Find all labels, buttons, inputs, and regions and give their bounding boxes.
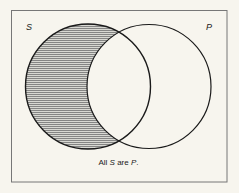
caption-suffix: . xyxy=(136,158,138,167)
set-label-p: P xyxy=(206,22,212,32)
circle-p xyxy=(87,25,211,149)
caption-prefix: All xyxy=(98,158,109,167)
caption-middle: are xyxy=(115,158,131,167)
caption: All S are P. xyxy=(0,158,237,167)
set-label-s: S xyxy=(26,22,32,32)
venn-diagram: S P All S are P. xyxy=(0,0,239,193)
